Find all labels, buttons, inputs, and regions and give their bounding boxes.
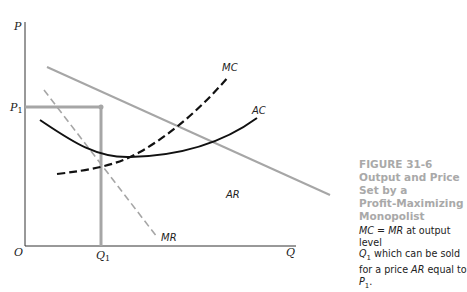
figure-description: MC = MR at output level Q1 which can be …	[359, 225, 467, 292]
q1-label: Q1	[96, 249, 110, 263]
ar-label: AR	[225, 189, 240, 200]
ar-curve	[47, 67, 330, 195]
figure-title-line-1: Output and Price Set by a	[359, 171, 467, 197]
mc-label: MC	[222, 62, 238, 73]
figure-caption: FIGURE 31-6 Output and Price Set by a Pr…	[359, 158, 467, 292]
origin-label: O	[14, 246, 23, 259]
p-axis-label: P	[13, 20, 22, 33]
equilibrium-point	[99, 105, 104, 110]
figure-title-line-3: Monopolist	[359, 210, 467, 223]
figure-title-line-2: Profit-Maximizing	[359, 197, 467, 210]
figure-number: FIGURE 31-6	[359, 158, 467, 171]
p1-label: P1	[9, 101, 23, 115]
ac-curve	[40, 118, 257, 157]
mr-label: MR	[161, 232, 177, 243]
mc-curve	[57, 76, 229, 174]
ac-label: AC	[251, 105, 266, 116]
q-axis-label: Q	[286, 246, 295, 259]
